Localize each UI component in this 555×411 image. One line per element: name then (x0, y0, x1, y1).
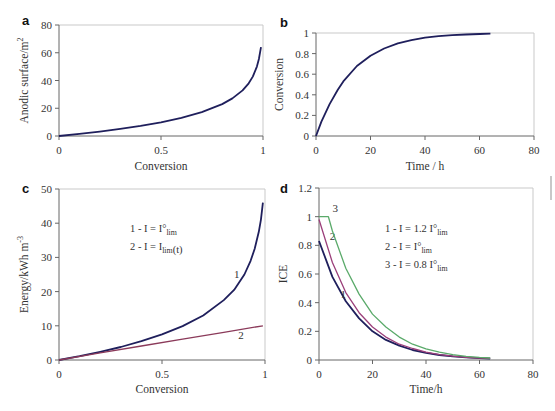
y-tick-label: 0.6 (295, 68, 309, 80)
y-tick-label: 0.2 (298, 325, 312, 337)
y-tick-label: 1 (307, 211, 313, 223)
panel-letter: b (280, 15, 288, 30)
y-axis-label: Anodic surface/m2 (16, 37, 30, 123)
x-tick-label: 1 (260, 144, 266, 156)
y-axis-label: ICE (277, 265, 289, 284)
y-tick-label: 0.2 (295, 109, 309, 121)
y-axis-label: Conversion (273, 58, 285, 111)
x-axis-label: Conversion (135, 383, 188, 395)
legend-entry: 2 - I = Ilim(t) (130, 241, 183, 256)
y-tick-label: 40 (41, 217, 53, 229)
legend-entry: 3 - I = 0.8 I°lim (385, 259, 448, 273)
series-label: 2 (238, 329, 244, 341)
y-tick-label: 40 (41, 75, 53, 87)
x-tick-label: 0 (313, 144, 319, 156)
x-tick-label: 1 (262, 368, 268, 380)
x-tick-label: 60 (474, 368, 486, 380)
x-axis-label: Conversion (134, 160, 187, 172)
series-line-conversion (316, 34, 490, 136)
y-axis-label: Energy/kWh m-3 (16, 236, 31, 313)
y-tick-label: 0.6 (298, 268, 312, 280)
x-tick-label: 0 (56, 368, 62, 380)
y-tick-label: 1.2 (298, 182, 312, 194)
x-tick-label: 60 (474, 144, 486, 156)
y-tick-label: 1 (304, 27, 310, 39)
y-tick-label: 0.4 (295, 89, 309, 101)
y-tick-label: 0.8 (298, 239, 312, 251)
x-tick-label: 40 (420, 144, 432, 156)
y-tick-label: 20 (41, 286, 53, 298)
y-tick-label: 50 (41, 183, 53, 195)
y-tick-label: 60 (41, 47, 53, 59)
y-tick-label: 0 (47, 130, 53, 142)
y-tick-label: 10 (41, 320, 53, 332)
y-tick-label: 0 (304, 130, 310, 142)
y-tick-label: 0 (307, 354, 313, 366)
x-tick-label: 0.5 (155, 368, 169, 380)
x-tick-label: 20 (367, 368, 379, 380)
x-tick-label: 0.5 (154, 144, 168, 156)
panel-b: 00.20.40.60.81020406080Time / hConversio… (273, 15, 540, 172)
x-tick-label: 80 (529, 144, 541, 156)
x-tick-label: 20 (365, 144, 377, 156)
panel-a: 02040608000.51ConversionAnodic surface/m… (16, 13, 265, 172)
panel-letter: d (280, 181, 288, 196)
y-tick-label: 0.4 (298, 297, 312, 309)
figure: 02040608000.51ConversionAnodic surface/m… (0, 0, 555, 411)
series-line-anodic-surface (59, 47, 261, 136)
series-line-3 (319, 217, 490, 358)
panel-d: 00.20.40.60.811.2020406080Time/hICEd1231… (277, 181, 539, 395)
x-tick-label: 80 (528, 368, 540, 380)
y-tick-label: 0 (47, 354, 53, 366)
legend-entry: 2 - I = I°lim (385, 241, 432, 255)
panel-c: 0102030405000.51ConversionEnergy/kWh m-3… (16, 181, 267, 395)
y-tick-label: 20 (41, 102, 53, 114)
panel-letter: a (22, 13, 30, 28)
edge-scroll-marker (550, 176, 552, 200)
legend-entry: 1 - I = I°lim (130, 223, 177, 237)
x-axis-label: Time / h (406, 160, 445, 172)
x-tick-label: 0 (56, 144, 62, 156)
y-tick-label: 80 (41, 19, 53, 31)
legend-entry: 1 - I = 1.2 I°lim (385, 223, 448, 237)
series-label: 3 (332, 202, 338, 214)
x-tick-label: 0 (316, 368, 322, 380)
y-tick-label: 0.8 (295, 48, 309, 60)
x-axis-label: Time/h (410, 383, 443, 395)
y-tick-label: 30 (41, 251, 53, 263)
series-label: 1 (234, 268, 240, 280)
x-tick-label: 40 (421, 368, 433, 380)
panel-letter: c (22, 181, 29, 196)
series-line-2 (59, 326, 263, 360)
